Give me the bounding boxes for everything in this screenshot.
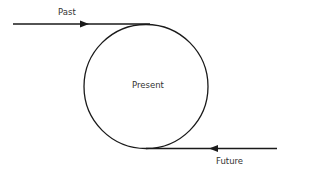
future-arrow-icon [209,145,218,152]
future-label: Future [216,156,243,166]
past-arrow-icon [80,21,89,28]
past-label: Past [58,7,76,17]
present-label: Present [132,80,164,90]
future-line [146,145,277,152]
